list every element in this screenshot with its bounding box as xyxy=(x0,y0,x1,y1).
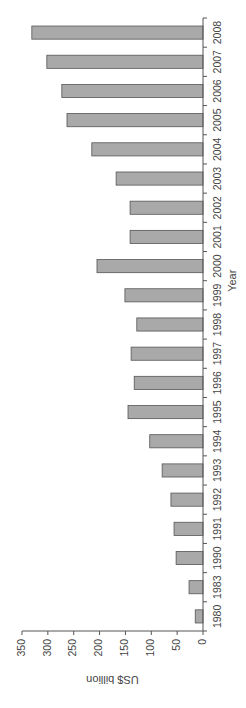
value-tick-label: 350 xyxy=(15,639,27,657)
bar-2002 xyxy=(130,201,203,214)
bar-1990 xyxy=(176,551,203,564)
bar-chart: 1980198319901991199219931994199519961997… xyxy=(0,0,246,708)
category-label: 2003 xyxy=(211,167,223,191)
bar-2008 xyxy=(32,26,203,39)
value-axis-title: US$ billion xyxy=(86,674,139,686)
category-label: 1990 xyxy=(211,546,223,570)
bar-2003 xyxy=(116,172,203,185)
bar-1995 xyxy=(128,406,203,419)
category-label: 2001 xyxy=(211,225,223,249)
category-label: 1993 xyxy=(211,459,223,483)
value-tick-label: 100 xyxy=(144,639,156,657)
category-label: 2005 xyxy=(211,108,223,132)
category-label: 2008 xyxy=(211,21,223,45)
bar-1997 xyxy=(131,347,203,360)
category-label: 2006 xyxy=(211,79,223,103)
bar-2005 xyxy=(67,114,203,127)
category-label: 2002 xyxy=(211,196,223,220)
category-label: 1995 xyxy=(211,400,223,424)
bar-1998 xyxy=(137,318,203,331)
value-tick-label: 0 xyxy=(196,639,208,645)
bar-1980 xyxy=(195,610,203,623)
category-axis-title: Year xyxy=(226,269,238,292)
bar-2006 xyxy=(62,84,203,97)
category-label: 1983 xyxy=(211,575,223,599)
category-label: 2007 xyxy=(211,50,223,74)
bar-1999 xyxy=(125,289,203,302)
value-tick-label: 250 xyxy=(66,639,78,657)
category-label: 1991 xyxy=(211,517,223,541)
bar-1992 xyxy=(171,493,203,506)
bar-1994 xyxy=(150,435,203,448)
value-tick-label: 150 xyxy=(118,639,130,657)
bars xyxy=(32,26,203,623)
value-tick-label: 50 xyxy=(170,639,182,651)
bar-1996 xyxy=(134,376,203,389)
bar-2004 xyxy=(92,143,203,156)
bar-1991 xyxy=(174,522,203,535)
value-tick-label: 200 xyxy=(92,639,104,657)
category-label: 1980 xyxy=(211,605,223,629)
bar-1993 xyxy=(162,464,203,477)
bar-2000 xyxy=(97,260,203,273)
bar-2001 xyxy=(130,230,203,243)
category-label: 1998 xyxy=(211,313,223,337)
category-label: 1999 xyxy=(211,283,223,307)
value-tick-label: 300 xyxy=(41,639,53,657)
bar-1983 xyxy=(189,581,203,594)
category-label: 1992 xyxy=(211,488,223,512)
category-label: 1996 xyxy=(211,371,223,395)
bar-2007 xyxy=(47,55,203,68)
category-label: 1994 xyxy=(211,429,223,453)
category-label: 2000 xyxy=(211,254,223,278)
category-label: 2004 xyxy=(211,138,223,162)
category-label: 1997 xyxy=(211,342,223,366)
